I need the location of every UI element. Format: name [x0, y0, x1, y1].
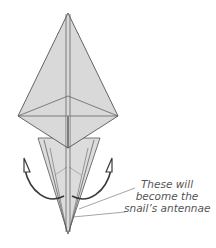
annotation-line-2: become the [124, 190, 210, 202]
antennae-annotation: These will become the snail’s antennae [124, 178, 210, 214]
annotation-line-3: snail’s antennae [124, 202, 210, 214]
arrowhead-icon [106, 158, 112, 172]
lower-point [38, 138, 100, 234]
annotation-line-1: These will [124, 178, 210, 190]
arrowhead-icon [24, 158, 30, 172]
